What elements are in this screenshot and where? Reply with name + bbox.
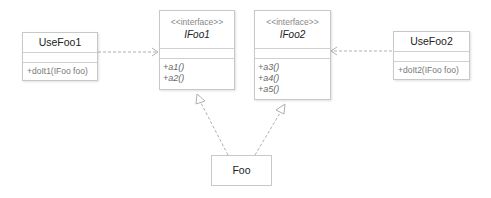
header-section: <<interface>> IFoo2 <box>255 11 330 48</box>
realization-foo-ifoo1 <box>196 94 228 155</box>
method: +a3() <box>255 62 330 73</box>
dependency-usefoo2-ifoo2 <box>331 47 392 55</box>
interface-ifoo2[interactable]: <<interface>> IFoo2 +a3() +a4() +a5() <box>254 10 331 100</box>
attributes-section <box>255 48 330 58</box>
method: +a2() <box>160 73 234 84</box>
class-usefoo2[interactable]: UseFoo2 +doIt2(IFoo foo) <box>393 31 470 80</box>
methods-section: +doIt2(IFoo foo) <box>394 61 469 76</box>
interface-name: IFoo1 <box>160 27 234 40</box>
stereotype-label: <<interface>> <box>160 11 234 27</box>
class-name: Foo <box>212 156 271 185</box>
interface-ifoo1[interactable]: <<interface>> IFoo1 +a1() +a2() <box>159 10 235 90</box>
method: +a5() <box>255 84 330 95</box>
class-usefoo1[interactable]: UseFoo1 +doIt1(IFoo foo) <box>22 32 98 81</box>
stereotype-label: <<interface>> <box>255 11 330 27</box>
dependency-usefoo1-ifoo1 <box>98 48 158 56</box>
methods-section: +a1() +a2() <box>160 58 234 84</box>
method: +doIt1(IFoo foo) <box>23 66 97 77</box>
realization-foo-ifoo2 <box>255 104 285 155</box>
methods-section: +a3() +a4() +a5() <box>255 58 330 95</box>
attributes-section <box>23 52 97 62</box>
class-foo[interactable]: Foo <box>211 155 272 186</box>
header-section: <<interface>> IFoo1 <box>160 11 234 48</box>
class-name: UseFoo1 <box>23 33 97 52</box>
class-name: UseFoo2 <box>394 32 469 51</box>
method: +a1() <box>160 62 234 73</box>
methods-section: +doIt1(IFoo foo) <box>23 62 97 77</box>
attributes-section <box>160 48 234 58</box>
method: +a4() <box>255 73 330 84</box>
attributes-section <box>394 51 469 61</box>
method: +doIt2(IFoo foo) <box>394 65 469 76</box>
interface-name: IFoo2 <box>255 27 330 40</box>
